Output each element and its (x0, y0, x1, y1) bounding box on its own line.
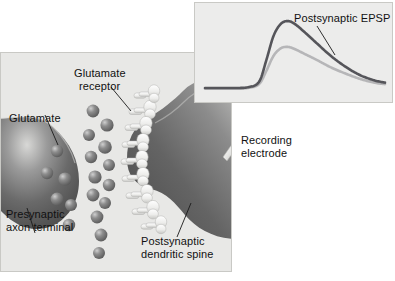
glutamate-receptor (134, 85, 160, 103)
glutamate-molecule (51, 145, 63, 157)
glutamate-molecule (98, 140, 112, 154)
glutamate-molecule (41, 167, 53, 179)
glutamate-molecule (83, 129, 95, 141)
label-presynaptic-line1: Presynaptic (6, 208, 65, 221)
glutamate-molecule (65, 199, 77, 211)
glutamate-molecule (103, 179, 115, 191)
glutamate-receptor (126, 184, 153, 203)
label-presynaptic-line2: axon terminal (6, 221, 73, 234)
label-postsynaptic-line1: Postsynaptic (141, 235, 205, 248)
glutamate-molecule (103, 159, 115, 171)
label-glutamate: Glutamate (9, 112, 61, 125)
glutamate-molecule (100, 118, 113, 131)
glutamate-molecule (87, 105, 100, 118)
label-glutamate-receptor-line1: Glutamate (74, 67, 126, 80)
epsp-trace-small (205, 47, 385, 89)
glutamate-molecule (93, 247, 105, 259)
glutamate-molecule (87, 189, 100, 202)
label-recording-line1: Recording (241, 134, 292, 147)
epsp-plot-area (205, 21, 385, 89)
glutamate-receptor (129, 100, 156, 119)
glutamate-molecule (95, 229, 108, 242)
label-glutamate-receptor-line2: receptor (79, 80, 120, 93)
glutamate-receptor (132, 200, 159, 219)
glutamate-molecule (91, 211, 104, 224)
label-recording-line2: electrode (241, 147, 287, 160)
glutamate-molecule (58, 172, 71, 185)
figure-canvas: Glutamate Glutamate receptor Presynaptic… (0, 0, 395, 281)
glutamate-molecule (85, 151, 97, 163)
label-postsynaptic-line2: dendritic spine (141, 248, 213, 261)
label-postsynaptic-epsp: Postsynaptic EPSP (294, 12, 390, 25)
glutamate-molecule (88, 170, 101, 183)
glutamate-molecule (99, 197, 111, 209)
epsp-inset-panel: Postsynaptic EPSP (194, 2, 393, 103)
glutamate-molecule (51, 193, 64, 206)
